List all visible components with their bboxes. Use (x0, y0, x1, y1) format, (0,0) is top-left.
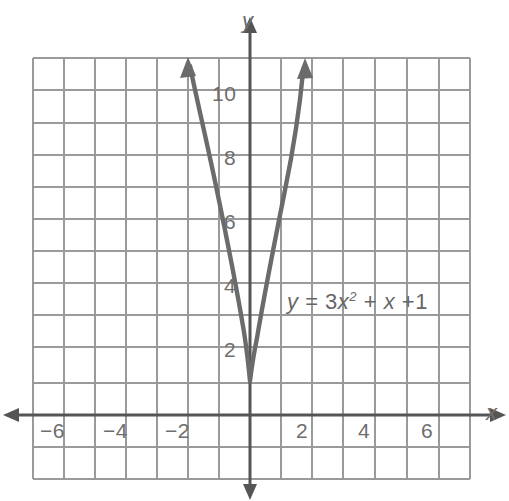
y-tick-label-6: 6 (224, 210, 236, 234)
equation-constant: 1 (415, 289, 428, 314)
equation-exponent: 2 (349, 289, 357, 304)
y-tick-label-4: 4 (224, 274, 236, 298)
equation-variable: x (338, 289, 350, 314)
x-tick-label-6: 6 (421, 419, 433, 443)
equation-plus-2: + (402, 289, 415, 314)
y-axis-bottom-arrowhead (243, 484, 257, 500)
y-axis-label: y (242, 8, 253, 34)
equation-coefficient: 3 (325, 289, 338, 314)
x-tick-label-neg4: −4 (103, 419, 128, 443)
curve-left-arrowhead (180, 57, 196, 78)
equation-equals: = (305, 289, 318, 314)
equation-plus-1: + (364, 289, 377, 314)
x-tick-label-neg6: −6 (40, 419, 65, 443)
graph-figure: 10 8 6 4 2 −6 −4 −2 2 4 6 y x y = 3x2 + … (0, 0, 509, 501)
y-tick-label-2: 2 (224, 338, 236, 362)
equation-annotation: y = 3x2 + x +1 (287, 289, 428, 315)
equation-lhs: y (287, 289, 299, 314)
x-tick-label-2: 2 (296, 419, 308, 443)
equation-linear-term: x (384, 289, 396, 314)
curve-right-arrowhead (297, 58, 313, 79)
x-axis-label: x (486, 400, 497, 426)
y-tick-label-10: 10 (212, 82, 236, 106)
x-tick-label-4: 4 (358, 419, 370, 443)
x-tick-label-neg2: −2 (165, 419, 190, 443)
x-axis-left-arrowhead (3, 408, 19, 422)
y-tick-label-8: 8 (224, 146, 236, 170)
